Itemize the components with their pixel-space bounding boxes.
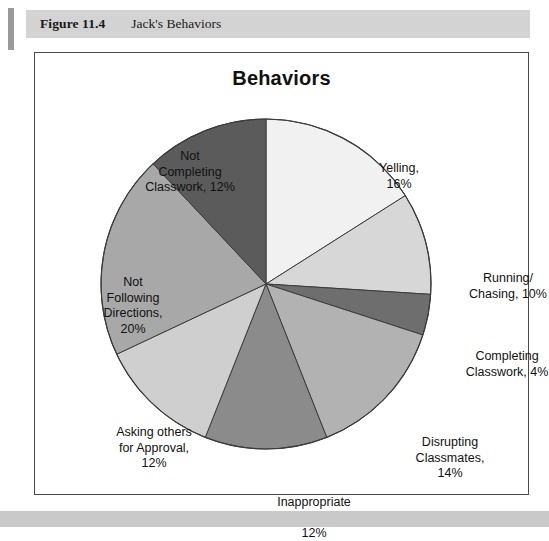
page-bottom-band (0, 511, 549, 527)
pie-label-not-following-directions: Not Following Directions, 20% (79, 275, 187, 337)
figure-number: Figure 11.4 (40, 16, 105, 32)
pie-label-disrupting-classmates: Disrupting Classmates, 14% (393, 435, 507, 482)
pie-label-completing-classwork: Completing Classwork, 4% (449, 349, 549, 380)
pie-label-asking-others-for-approval: Asking others for Approval, 12% (91, 425, 217, 472)
pie-label-running-chasing: Running/ Chasing, 10% (449, 271, 549, 302)
pie-label-not-completing-classwork: Not Completing Classwork, 12% (127, 149, 253, 196)
page-edge-rule (8, 8, 14, 50)
chart-frame: Behaviors Not Completing Classwork, 12% … (34, 52, 529, 495)
figure-caption-band: Figure 11.4 Jack's Behaviors (26, 10, 530, 38)
pie-label-yelling: Yelling, 16% (347, 161, 451, 192)
figure-caption-title: Jack's Behaviors (131, 16, 221, 32)
